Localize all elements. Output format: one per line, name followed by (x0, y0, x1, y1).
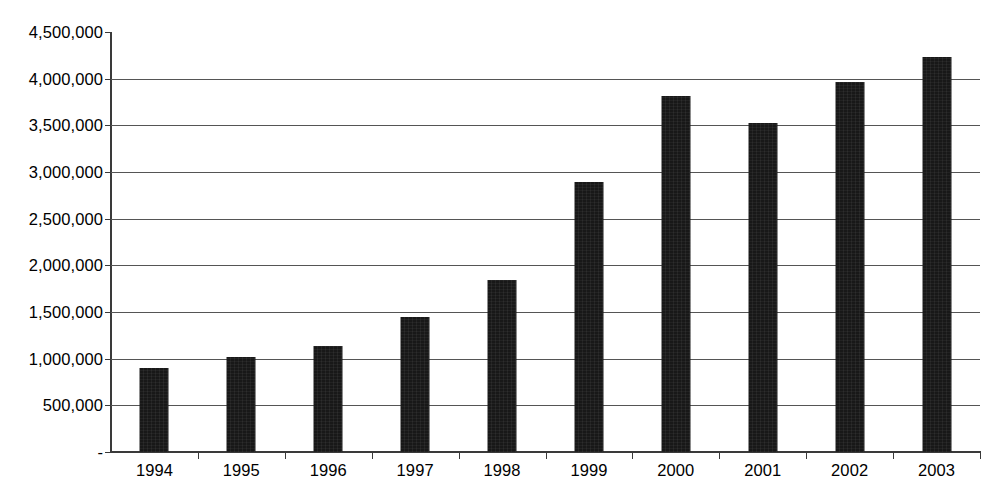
x-axis-tick (980, 452, 981, 459)
x-axis-tick (459, 452, 460, 459)
x-axis-category-label: 2003 (893, 460, 980, 480)
bar-slot (459, 32, 546, 452)
bar-1994 (140, 368, 169, 452)
bar-slot (893, 32, 980, 452)
plot-area (111, 32, 980, 452)
y-axis-tick-label: 4,500,000 (0, 24, 103, 40)
y-axis-zero-label: - (0, 444, 103, 460)
y-axis-tick-label: 2,000,000 (0, 257, 103, 273)
bar-slot (372, 32, 459, 452)
bar-slot (198, 32, 285, 452)
x-axis-category-label: 1994 (111, 460, 198, 480)
bar-2000 (661, 96, 690, 452)
y-axis-tick-label: 3,500,000 (0, 117, 103, 133)
y-axis-tick-label: 2,500,000 (0, 211, 103, 227)
x-axis-tick (893, 452, 894, 459)
bar-1998 (488, 280, 517, 452)
y-axis-tick-label: 1,000,000 (0, 351, 103, 367)
y-axis-tick-label: 3,000,000 (0, 164, 103, 180)
bar-slot (806, 32, 893, 452)
bar-2002 (835, 82, 864, 452)
bar-series (111, 32, 980, 452)
x-axis-category-label: 1996 (285, 460, 372, 480)
x-axis-category-label: 1999 (546, 460, 633, 480)
y-axis-tick (105, 452, 111, 453)
y-axis-tick-label: 4,000,000 (0, 71, 103, 87)
bar-slot (719, 32, 806, 452)
x-axis-category-label: 2002 (806, 460, 893, 480)
x-axis-tick (285, 452, 286, 459)
bar-slot (111, 32, 198, 452)
x-axis-tick (806, 452, 807, 459)
x-axis-tick (546, 452, 547, 459)
x-axis-category-label: 2000 (632, 460, 719, 480)
x-axis-tick (372, 452, 373, 459)
bar-1995 (227, 357, 256, 452)
y-axis-tick-label: 500,000 (0, 397, 103, 413)
x-axis-category-label: 1995 (198, 460, 285, 480)
x-axis-category-label: 1998 (459, 460, 546, 480)
bar-1999 (574, 182, 603, 452)
x-axis-tick (719, 452, 720, 459)
y-axis-labels: 4,500,000 4,000,000 3,500,000 3,000,000 … (0, 0, 103, 496)
bar-1996 (314, 346, 343, 452)
y-axis-tick-label: 1,500,000 (0, 304, 103, 320)
x-axis-tick (632, 452, 633, 459)
bar-slot (632, 32, 719, 452)
bar-chart: 4,500,000 4,000,000 3,500,000 3,000,000 … (0, 0, 993, 496)
x-axis-category-label: 1997 (372, 460, 459, 480)
bar-slot (285, 32, 372, 452)
x-axis-category-label: 2001 (719, 460, 806, 480)
bar-2001 (748, 123, 777, 452)
bar-slot (546, 32, 633, 452)
bar-1997 (401, 317, 430, 452)
x-axis-tick (198, 452, 199, 459)
x-axis-labels: 1994 1995 1996 1997 1998 1999 2000 2001 … (111, 460, 980, 488)
bar-2003 (922, 57, 951, 452)
